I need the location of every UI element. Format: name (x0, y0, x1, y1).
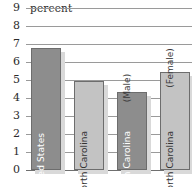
y-tick-label-6: 6 (0, 56, 20, 67)
bar-4: North Carolina(Female) (160, 72, 190, 170)
bar-2: North Carolina (74, 81, 104, 170)
bar-label: North Carolina (123, 131, 132, 187)
y-tick-label-5: 5 (0, 74, 20, 85)
y-tick-label-3: 3 (0, 110, 20, 121)
bar-label: North Carolina (80, 131, 89, 187)
bar-3: North Carolina(Male) (117, 92, 147, 170)
y-tick-label-8: 8 (0, 20, 20, 31)
y-tick-label-9: 9 (0, 2, 20, 13)
bar-label: North Carolina (166, 131, 175, 187)
bar-group: United StatesNorth CarolinaNorth Carolin… (26, 8, 192, 170)
bar-1: United States (31, 48, 61, 170)
bar-sublabel: (Female) (166, 48, 175, 88)
y-tick-label-7: 7 (0, 38, 20, 49)
bar-sublabel: (Male) (123, 74, 132, 102)
y-tick-label-0: 0 (0, 164, 20, 175)
plot-area: 9876543210 United StatesNorth CarolinaNo… (26, 8, 192, 170)
y-tick-label-4: 4 (0, 92, 20, 103)
y-tick-label-2: 2 (0, 128, 20, 139)
bar-chart: percent 9876543210 United StatesNorth Ca… (0, 0, 192, 187)
bar-label: United States (37, 133, 46, 187)
y-tick-label-1: 1 (0, 146, 20, 157)
